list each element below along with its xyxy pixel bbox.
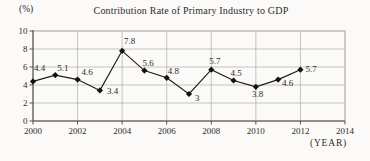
x-axis-tick-label: 2010 <box>247 126 266 136</box>
line-chart-figure: Contribution Rate of Primary Industry to… <box>0 0 370 161</box>
data-point-marker <box>230 77 236 83</box>
data-point-label: 3.4 <box>107 86 119 96</box>
data-point-marker <box>30 78 36 84</box>
data-point-label: 4.8 <box>168 66 180 76</box>
data-point-label: 5.7 <box>305 64 317 74</box>
data-point-label: 4.6 <box>82 67 94 77</box>
data-point-label: 5.6 <box>142 58 154 68</box>
data-point-marker <box>275 77 281 83</box>
x-axis-tick-label: 2004 <box>113 126 132 136</box>
plot-area: 2000200220042006200820102012201402468104… <box>0 0 370 161</box>
x-axis-tick-label: 2014 <box>336 126 355 136</box>
data-point-marker <box>74 77 80 83</box>
data-point-label: 7.8 <box>124 36 136 46</box>
y-axis-tick-label: 8 <box>23 44 28 54</box>
y-axis-tick-label: 6 <box>23 62 28 72</box>
y-axis-tick-label: 10 <box>19 26 29 36</box>
x-axis-tick-label: 2000 <box>24 126 43 136</box>
data-point-marker <box>297 67 303 73</box>
y-axis-tick-label: 2 <box>23 98 28 108</box>
data-point-marker <box>97 87 103 93</box>
data-point-label: 3.8 <box>252 89 264 99</box>
data-point-label: 5.1 <box>57 63 68 73</box>
x-axis-tick-label: 2008 <box>202 126 221 136</box>
data-point-label: 3 <box>195 93 200 103</box>
x-axis-tick-label: 2002 <box>69 126 87 136</box>
data-point-label: 5.7 <box>209 56 221 66</box>
plot-frame <box>33 31 345 121</box>
data-point-label: 4.4 <box>34 63 46 73</box>
data-point-label: 4.5 <box>231 68 243 78</box>
data-point-label: 4.6 <box>282 78 294 88</box>
x-axis-tick-label: 2012 <box>291 126 309 136</box>
x-axis-unit-label: (YEAR) <box>310 138 347 148</box>
y-axis-tick-label: 4 <box>23 80 28 90</box>
x-axis-tick-label: 2006 <box>158 126 177 136</box>
y-axis-tick-label: 0 <box>23 116 28 126</box>
